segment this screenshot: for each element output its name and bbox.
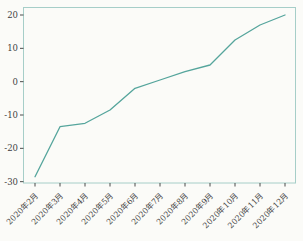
y-tick-label: 10	[7, 43, 18, 53]
y-tick-label: 0	[13, 77, 18, 87]
y-tick-label: 20	[7, 10, 18, 20]
chart-figure: 20100-10-20-302020年2月2020年3月2020年4月2020年…	[0, 0, 303, 241]
y-tick-label: -20	[4, 143, 18, 153]
plot-border	[24, 8, 296, 184]
y-tick-label: -10	[4, 110, 18, 120]
line-chart: 20100-10-20-302020年2月2020年3月2020年4月2020年…	[0, 0, 303, 241]
data-line-series	[35, 15, 285, 177]
y-tick-label: -30	[4, 177, 18, 187]
